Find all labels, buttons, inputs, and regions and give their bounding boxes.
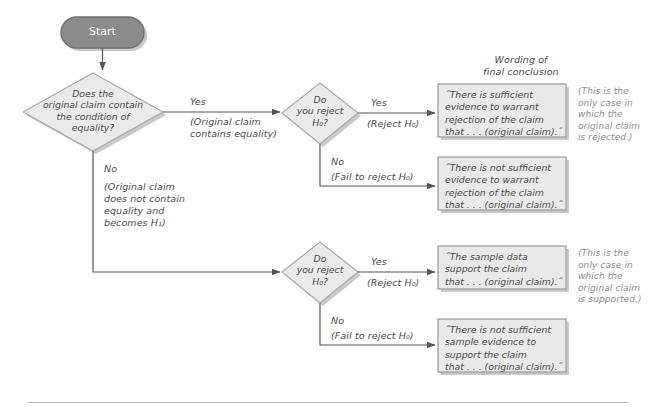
conclusion-box-4 xyxy=(438,319,566,372)
footer-divider xyxy=(28,402,628,403)
branch-label-equality-no: No xyxy=(104,163,117,175)
decision-reject-bottom-shape xyxy=(282,242,358,303)
branch-label-top-no: No xyxy=(331,156,344,168)
decision-equality-shape xyxy=(23,73,163,151)
side-note-rejected: (This is the only case in which the orig… xyxy=(578,86,658,144)
side-note-supported: (This is the only case in which the orig… xyxy=(578,248,658,306)
branch-note-equality-no: (Original claim does not contain equalit… xyxy=(104,181,214,230)
conclusion-box-2 xyxy=(438,157,566,210)
branch-label-top-yes: Yes xyxy=(371,97,387,109)
start-oval xyxy=(61,17,144,48)
conclusion-box-3 xyxy=(438,246,566,289)
wording-header-note: Wording of final conclusion xyxy=(466,54,576,78)
branch-label-bottom-yes: Yes xyxy=(371,256,387,268)
branch-label-bottom-no: No xyxy=(331,315,344,327)
branch-note-bottom-yes: (Reject H₀) xyxy=(367,277,419,289)
branch-note-equality-yes: (Original claim contains equality) xyxy=(190,116,290,140)
branch-label-equality-yes: Yes xyxy=(190,96,206,108)
branch-note-top-no: (Fail to reject H₀) xyxy=(331,171,414,183)
conclusion-box-1 xyxy=(438,84,566,137)
branch-note-top-yes: (Reject H₀) xyxy=(367,118,419,130)
decision-reject-top-shape xyxy=(282,83,358,144)
branch-note-bottom-no: (Fail to reject H₀) xyxy=(331,330,414,342)
